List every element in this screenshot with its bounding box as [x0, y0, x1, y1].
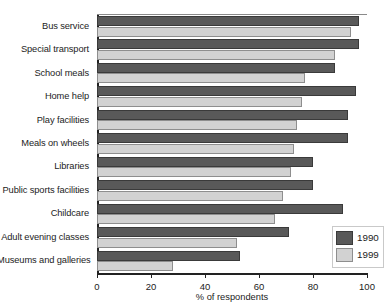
category-label: School meals [0, 68, 89, 78]
bar-group [97, 86, 367, 109]
category-label: Meals on wheels [0, 138, 89, 148]
x-tick [151, 273, 152, 278]
bar-1990-6 [97, 157, 313, 167]
chart-legend: 1990 1999 [332, 226, 384, 268]
category-label: Libraries [0, 161, 89, 171]
bar-group [97, 16, 367, 39]
x-tick [205, 273, 206, 278]
category-label: Museums and galleries [0, 255, 89, 265]
bar-1999-9 [97, 238, 237, 248]
x-tick-label: 20 [131, 281, 171, 292]
bar-1990-7 [97, 180, 313, 190]
bar-group [97, 39, 367, 62]
x-axis-title: % of respondents [97, 292, 367, 302]
bar-1999-3 [97, 97, 302, 107]
legend-swatch-1990-icon [336, 231, 353, 245]
bar-1990-1 [97, 39, 359, 49]
bar-1990-3 [97, 86, 356, 96]
legend-label-1990: 1990 [357, 232, 379, 244]
category-label: Bus service [0, 21, 89, 31]
bar-group [97, 180, 367, 203]
bar-1990-2 [97, 63, 335, 73]
category-label: Public sports facilities [0, 185, 89, 195]
x-tick-label: 100 [347, 281, 387, 292]
bar-group [97, 204, 367, 227]
bar-1999-1 [97, 50, 335, 60]
bar-1999-10 [97, 261, 173, 271]
plot-area: 020406080100 [97, 14, 367, 273]
bar-group [97, 227, 367, 250]
x-tick [313, 273, 314, 278]
legend-swatch-1999-icon [336, 248, 353, 262]
x-tick-label: 0 [77, 281, 117, 292]
bar-1999-4 [97, 120, 297, 130]
x-tick-label: 80 [293, 281, 333, 292]
bar-1990-0 [97, 16, 359, 26]
category-label: Special transport [0, 44, 89, 54]
bar-group [97, 251, 367, 274]
x-tick-label: 60 [239, 281, 279, 292]
bar-chart: Bus serviceSpecial transportSchool meals… [0, 0, 387, 308]
category-label: Childcare [0, 208, 89, 218]
bar-group [97, 63, 367, 86]
bar-1990-8 [97, 204, 343, 214]
legend-label-1999: 1999 [357, 249, 379, 261]
bar-group [97, 133, 367, 156]
bar-1999-0 [97, 27, 351, 37]
category-label: Play facilities [0, 115, 89, 125]
bar-1990-10 [97, 251, 240, 261]
x-tick [97, 273, 98, 278]
bar-1999-5 [97, 144, 294, 154]
bar-1990-5 [97, 133, 348, 143]
category-axis-labels: Bus serviceSpecial transportSchool meals… [0, 14, 93, 272]
bar-1999-2 [97, 73, 305, 83]
bar-group [97, 110, 367, 133]
bar-1990-9 [97, 227, 289, 237]
bar-1999-7 [97, 191, 283, 201]
category-label: Adult evening classes [0, 232, 89, 242]
x-tick [259, 273, 260, 278]
bar-1999-6 [97, 167, 291, 177]
x-tick [367, 273, 368, 278]
bar-1990-4 [97, 110, 348, 120]
bar-1999-8 [97, 214, 275, 224]
category-label: Home help [0, 91, 89, 101]
x-tick-label: 40 [185, 281, 225, 292]
bar-group [97, 157, 367, 180]
